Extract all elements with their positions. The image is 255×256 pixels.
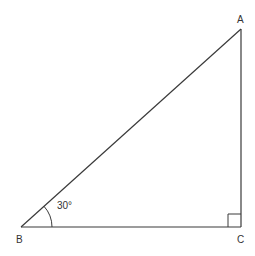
vertex-label-a: A bbox=[237, 14, 244, 25]
right-angle-marker-c bbox=[228, 214, 241, 227]
triangle-diagram: A B C 30° bbox=[0, 0, 255, 256]
angle-arc-b bbox=[44, 206, 52, 227]
vertex-label-c: C bbox=[237, 234, 244, 245]
angle-label-b: 30° bbox=[57, 200, 72, 211]
triangle bbox=[21, 29, 241, 227]
vertex-label-b: B bbox=[16, 234, 23, 245]
side-ab bbox=[21, 29, 241, 227]
